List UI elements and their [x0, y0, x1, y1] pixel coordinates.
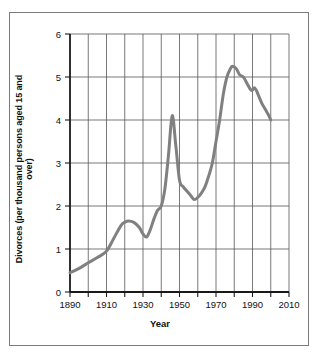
x-axis-title: Year	[10, 318, 310, 329]
y-tick-label: 1	[56, 244, 61, 255]
chart-figure: 18901910193019501970199020100123456 Divo…	[9, 12, 309, 346]
divorce-rate-line-chart: 18901910193019501970199020100123456	[10, 13, 310, 347]
data-series-line	[70, 66, 271, 272]
x-tick-label: 1950	[169, 299, 190, 310]
y-tick-label: 4	[56, 115, 61, 126]
y-tick-label: 3	[56, 158, 61, 169]
x-tick-label: 1910	[96, 299, 117, 310]
y-axis-title: Divorces (per thousand persons aged 15 a…	[14, 69, 34, 269]
y-tick-label: 5	[56, 72, 61, 83]
x-tick-label: 2010	[278, 299, 299, 310]
x-tick-label: 1990	[242, 299, 263, 310]
x-tick-label: 1890	[59, 299, 80, 310]
y-tick-label: 2	[56, 201, 61, 212]
plot-area: 18901910193019501970199020100123456 Divo…	[10, 13, 310, 347]
x-tick-label: 1970	[205, 299, 226, 310]
x-tick-label: 1930	[132, 299, 153, 310]
y-tick-label: 0	[56, 287, 61, 298]
y-tick-label: 6	[56, 29, 61, 40]
